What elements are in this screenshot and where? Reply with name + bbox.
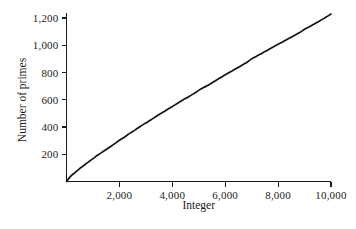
y-axis-label: Number of primes (16, 58, 28, 142)
y-axis-tick-marks (62, 18, 67, 154)
prime-count-curve (67, 14, 332, 181)
x-tick-label: 10,000 (315, 189, 346, 201)
x-tick-label: 2,000 (107, 189, 133, 201)
x-axis-label: Integer (182, 199, 215, 211)
axes-group (67, 13, 332, 182)
x-tick-label: 8,000 (265, 189, 291, 201)
y-tick-label: 200 (41, 148, 58, 160)
y-tick-label: 400 (41, 121, 58, 133)
x-axis-tick-marks (119, 182, 331, 187)
x-tick-label: 6,000 (212, 189, 238, 201)
y-tick-label: 600 (41, 94, 58, 106)
y-tick-label: 800 (41, 67, 58, 79)
prime-counting-chart-figure: 2004006008001,0001,200 2,0004,0006,0008,… (0, 0, 356, 229)
x-tick-label: 4,000 (159, 189, 185, 201)
y-tick-label: 1,200 (33, 12, 59, 24)
y-tick-label: 1,000 (33, 39, 59, 51)
